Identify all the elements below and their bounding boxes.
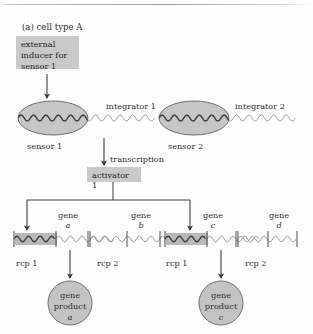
gene-product-a-line-2: product xyxy=(48,301,92,312)
gene-product-c-line-2: product xyxy=(199,301,243,312)
gene-product-c-line-1: gene xyxy=(199,290,243,301)
figure-panel: (a) cell type A external inducer for sen… xyxy=(0,0,313,334)
gene-product-c-line-3: c xyxy=(199,312,243,323)
sensor-1-ellipse xyxy=(18,101,88,135)
promoter-rcp1-right xyxy=(166,233,208,245)
diagram-vector-layer xyxy=(0,0,313,334)
promoter-rcp1-left xyxy=(15,233,57,245)
gene-product-a-line-3: a xyxy=(48,312,92,323)
dna-gene-wave-a xyxy=(56,236,114,242)
sensor-2-ellipse xyxy=(159,101,229,135)
gene-product-c-text: gene product c xyxy=(199,290,243,322)
gene-product-a-text: gene product a xyxy=(48,290,92,322)
gene-product-a-line-1: gene xyxy=(48,290,92,301)
